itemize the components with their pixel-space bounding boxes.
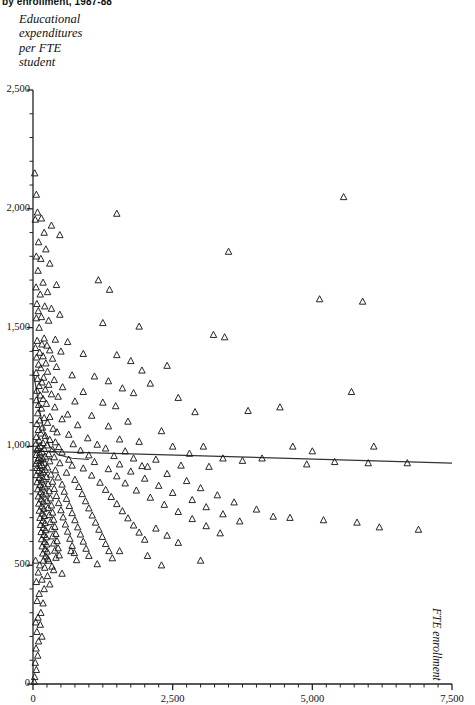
data-point [142,536,148,542]
data-point [105,423,111,429]
data-point [58,507,64,513]
data-point [69,510,75,516]
data-point [175,394,181,400]
data-point [48,391,54,397]
data-point [63,469,69,475]
data-point [34,375,40,381]
data-point [270,513,276,519]
data-point [80,538,86,544]
y-tick-label: 2,000 [0,202,30,213]
data-point [116,461,122,467]
data-point [290,443,296,449]
data-point [51,376,57,382]
data-point [49,478,55,484]
data-point [33,666,39,672]
data-point [210,331,216,337]
data-point [92,519,98,525]
data-point [136,529,142,535]
data-point [320,517,326,523]
data-point [51,485,57,491]
data-point [59,481,65,487]
data-point [316,296,322,302]
data-point [128,468,134,474]
data-point [125,515,131,521]
data-point [114,473,120,479]
data-point [105,466,111,472]
data-point [153,456,159,462]
data-point [220,455,226,461]
data-point [112,403,118,409]
data-point [44,572,50,578]
data-point [130,455,136,461]
data-point [192,409,198,415]
data-point [57,460,63,466]
data-point [169,489,175,495]
data-point [86,552,92,558]
data-point [54,429,60,435]
data-point [139,462,145,468]
data-point [158,428,164,434]
data-point [91,373,97,379]
data-point [359,298,365,304]
data-point [48,222,54,228]
data-point [404,460,410,466]
data-point [64,528,70,534]
data-point [94,561,100,567]
data-point [108,493,114,499]
data-point [73,557,79,563]
data-point [217,530,223,536]
x-tick-label: 5,000 [282,693,342,704]
data-point [197,557,203,563]
data-point [34,209,40,215]
data-point [102,445,108,451]
data-point [221,334,227,340]
data-point [206,463,212,469]
data-point [130,390,136,396]
data-point [50,425,56,431]
x-tick-label: 7,500 [422,693,475,704]
data-point [38,430,44,436]
data-point [67,535,73,541]
data-point [74,422,80,428]
data-point [105,378,111,384]
data-point [304,461,310,467]
data-point [55,474,61,480]
data-point [34,420,40,426]
data-point [354,519,360,525]
data-point [57,311,63,317]
data-point [53,281,59,287]
data-point [99,533,105,539]
data-point [62,521,68,527]
data-point [164,362,170,368]
data-point [40,600,46,606]
data-point [239,457,245,463]
data-point [88,472,94,478]
data-point [122,480,128,486]
data-point [183,477,189,483]
data-point [245,407,251,413]
data-point [33,284,39,290]
data-point [33,645,39,651]
data-point [100,399,106,405]
data-point [52,404,58,410]
data-point [136,438,142,444]
data-point-group [31,170,422,685]
data-point [236,518,242,524]
data-point [33,191,39,197]
data-point [35,308,41,314]
data-point [39,576,45,582]
data-point [164,532,170,538]
data-point [55,393,61,399]
data-point [43,360,49,366]
data-point [106,286,112,292]
data-point [287,514,293,520]
data-point [34,628,40,634]
data-point [277,404,283,410]
data-point [66,431,72,437]
data-point [253,506,259,512]
data-point [189,515,195,521]
data-point [91,458,97,464]
data-point [116,548,122,554]
data-point [43,246,49,252]
data-point [35,569,41,575]
